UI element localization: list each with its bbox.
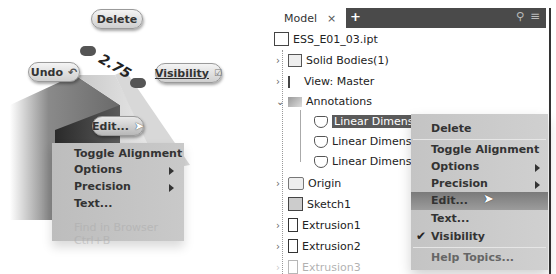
browser-tab-bar: Model × + ⚲ ≡ (274, 8, 546, 28)
menu-item-options[interactable]: Options (431, 160, 479, 173)
close-icon[interactable]: × (327, 12, 336, 25)
tree-label: View: Master (304, 75, 374, 88)
solid-bodies-icon (288, 54, 302, 67)
tree-label: Extrusion3 (302, 261, 361, 274)
folder-icon (288, 177, 304, 190)
tree-node-extrusion1[interactable]: › Extrusion1 (276, 218, 361, 232)
tree-label: Extrusion2 (302, 240, 361, 253)
expand-icon[interactable]: › (276, 262, 284, 273)
cursor-icon: ➤ (483, 191, 494, 206)
visibility-check-icon: ☑ (214, 68, 222, 78)
dimension-icon (314, 136, 328, 148)
tree-label: Extrusion1 (302, 219, 361, 232)
viewport: 2.75 Delete Undo ↶ Visibility ☑ Edit... … (0, 0, 260, 274)
tree-node-extrusion2[interactable]: › Extrusion2 (276, 239, 361, 253)
menu-icon[interactable]: ≡ (530, 9, 540, 23)
menu-item-text[interactable]: Text... (74, 197, 112, 210)
dimension-grip-left[interactable] (80, 46, 96, 56)
undo-icon: ↶ (68, 66, 77, 79)
visibility-button[interactable]: Visibility ☑ (155, 63, 222, 83)
menu-item-toggle-alignment[interactable]: Toggle Alignment (74, 147, 182, 160)
menu-item-delete[interactable]: Delete (431, 122, 472, 135)
dimension-icon (314, 116, 328, 128)
search-icon[interactable]: ⚲ (516, 10, 524, 23)
delete-label: Delete (97, 13, 138, 26)
menu-item-visibility[interactable]: Visibility (431, 230, 485, 243)
extrusion-icon (288, 218, 298, 232)
tree-node-annotations[interactable]: ⌄ Annotations (276, 95, 372, 108)
menu-item-find-in-browser[interactable]: Find in Browser Ctrl+B (74, 221, 184, 247)
tab-model[interactable]: Model × (274, 8, 346, 28)
tree-node-extrusion3[interactable]: › Extrusion3 (276, 260, 361, 274)
sketch-icon (288, 197, 303, 211)
tree-node-view-master[interactable]: › View: Master (276, 75, 374, 88)
tab-model-label: Model (284, 12, 317, 25)
extrusion-icon (288, 239, 298, 253)
menu-item-options[interactable]: Options (74, 163, 122, 176)
dimension-icon (314, 156, 328, 168)
expand-icon[interactable]: › (276, 178, 284, 189)
collapse-icon[interactable]: ⌄ (276, 96, 284, 107)
menu-item-precision[interactable]: Precision (431, 177, 488, 190)
menu-item-toggle-alignment[interactable]: Toggle Alignment (431, 143, 539, 156)
add-tab-button[interactable]: + (350, 9, 361, 24)
panel-border (549, 8, 551, 274)
tree-node-part[interactable]: ESS_E01_03.ipt (274, 32, 378, 46)
expand-icon[interactable]: › (276, 55, 284, 66)
undo-label: Undo (31, 66, 63, 79)
dimension-grip-right[interactable] (130, 78, 146, 88)
edit-label: Edit... (92, 120, 129, 133)
visibility-label: Visibility (155, 67, 209, 80)
tab-strip: + ⚲ ≡ (346, 8, 546, 28)
tree-node-sketch1[interactable]: Sketch1 (288, 197, 351, 211)
submenu-arrow-icon (535, 164, 540, 172)
overflow-menu: Toggle Alignment Options Precision Text.… (52, 143, 184, 241)
tree-label: Solid Bodies(1) (306, 54, 389, 67)
expand-icon[interactable]: › (276, 76, 284, 87)
view-icon (288, 76, 300, 88)
submenu-arrow-icon (169, 167, 174, 175)
expand-icon[interactable]: › (276, 220, 284, 231)
tree-node-origin[interactable]: › Origin (276, 177, 341, 190)
delete-button[interactable]: Delete (91, 9, 143, 29)
tree-node-solid-bodies[interactable]: › Solid Bodies(1) (276, 54, 389, 67)
part-icon (274, 32, 289, 46)
menu-separator (413, 247, 546, 248)
annotations-icon (288, 97, 302, 107)
check-icon: ✔ (416, 229, 426, 243)
tree-line (300, 110, 301, 162)
undo-button[interactable]: Undo ↶ (28, 62, 80, 82)
edit-button[interactable]: Edit... ➤ (92, 116, 144, 136)
menu-item-edit[interactable]: Edit... (431, 194, 468, 207)
tree-label: ESS_E01_03.ipt (293, 33, 378, 46)
submenu-arrow-icon (169, 184, 174, 192)
menu-separator (413, 139, 546, 140)
menu-item-help-topics[interactable]: Help Topics... (431, 251, 514, 264)
tree-label: Annotations (306, 95, 372, 108)
menu-item-precision[interactable]: Precision (74, 180, 131, 193)
extrusion-icon (288, 260, 298, 274)
submenu-arrow-icon (535, 181, 540, 189)
expand-icon[interactable]: › (276, 241, 284, 252)
context-menu: Delete Toggle Alignment Options Precisio… (411, 114, 548, 270)
menu-item-text[interactable]: Text... (431, 212, 469, 225)
tree-label: Origin (308, 177, 341, 190)
cursor-icon: ➤ (134, 119, 144, 133)
tree-label: Sketch1 (307, 198, 351, 211)
